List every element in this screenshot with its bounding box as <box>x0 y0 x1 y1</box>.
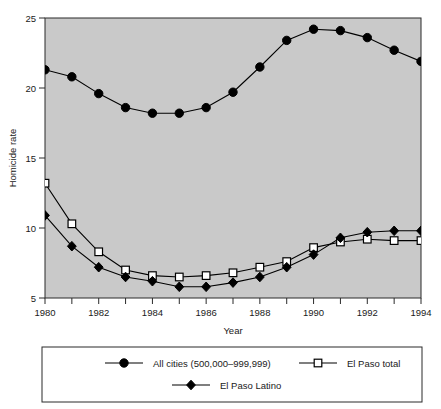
x-axis-title: Year <box>223 325 242 336</box>
data-point-filled-circle <box>68 73 76 81</box>
y-tick-label: 10 <box>25 223 36 234</box>
x-tick-label: 1992 <box>357 307 378 318</box>
legend-marker-filled-diamond <box>187 380 196 390</box>
data-point-filled-circle <box>202 103 210 111</box>
y-tick-label: 5 <box>31 293 36 304</box>
chart-figure: 510152025 198019821984198619881990199219… <box>0 0 441 409</box>
y-axis-title: Homicide rate <box>7 129 18 188</box>
x-tick-label: 1994 <box>410 307 431 318</box>
data-point-open-square <box>256 263 264 271</box>
x-tick-label: 1980 <box>34 307 55 318</box>
data-point-filled-circle <box>283 36 291 44</box>
legend-box <box>42 347 422 402</box>
legend-label: El Paso Latino <box>220 380 281 391</box>
data-point-filled-circle <box>309 25 317 33</box>
data-point-open-square <box>68 220 76 228</box>
x-axis-ticks: 19801982198419861988199019921994 <box>34 298 431 318</box>
data-point-filled-circle <box>121 103 129 111</box>
data-point-filled-circle <box>417 57 425 65</box>
data-point-open-square <box>229 269 237 277</box>
legend-entries: All cities (500,000–999,999)El Paso tota… <box>105 358 400 391</box>
data-point-filled-circle <box>41 66 49 74</box>
x-tick-label: 1984 <box>142 307 163 318</box>
x-tick-label: 1990 <box>303 307 324 318</box>
x-tick-label: 1982 <box>88 307 109 318</box>
y-tick-label: 15 <box>25 153 36 164</box>
y-tick-label: 20 <box>25 83 36 94</box>
legend-item[interactable]: All cities (500,000–999,999) <box>105 358 271 369</box>
x-tick-label: 1986 <box>196 307 217 318</box>
data-point-filled-circle <box>229 88 237 96</box>
legend-marker-open-square <box>314 359 322 367</box>
data-point-open-square <box>95 248 103 256</box>
y-tick-label: 25 <box>25 13 36 24</box>
x-tick-label: 1988 <box>249 307 270 318</box>
data-point-open-square <box>202 272 210 280</box>
data-point-filled-circle <box>390 46 398 54</box>
y-axis-ticks: 510152025 <box>25 13 45 304</box>
chart-svg: 510152025 198019821984198619881990199219… <box>0 0 441 409</box>
data-point-open-square <box>417 237 425 245</box>
data-point-open-square <box>175 273 183 281</box>
data-point-filled-circle <box>175 109 183 117</box>
data-point-filled-circle <box>336 26 344 34</box>
data-point-filled-circle <box>148 109 156 117</box>
legend-label: All cities (500,000–999,999) <box>153 358 271 369</box>
data-point-open-square <box>390 237 398 245</box>
legend-marker-filled-circle <box>120 359 128 367</box>
data-point-filled-circle <box>256 63 264 71</box>
data-point-filled-circle <box>95 89 103 97</box>
legend-item[interactable]: El Paso Latino <box>172 380 281 391</box>
legend-label: El Paso total <box>347 358 400 369</box>
data-point-open-square <box>41 179 49 187</box>
legend-item[interactable]: El Paso total <box>299 358 400 369</box>
data-point-filled-circle <box>363 33 371 41</box>
